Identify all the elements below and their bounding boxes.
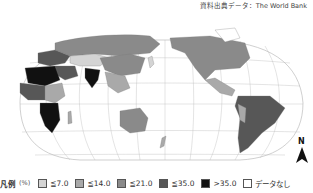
legend: 凡例 (%) ≦7.0 ≦14.0 ≦21.0 ≦35.0 >35.0 データな… bbox=[0, 175, 297, 191]
legend-swatch bbox=[201, 179, 210, 188]
region-central-america bbox=[205, 78, 235, 96]
legend-item-le35: ≦35.0 bbox=[159, 179, 194, 188]
legend-label: データなし bbox=[255, 178, 290, 189]
world-choropleth-map bbox=[0, 8, 313, 170]
region-west-africa bbox=[20, 83, 45, 100]
north-arrow-icon bbox=[296, 147, 308, 163]
legend-label: >35.0 bbox=[213, 179, 236, 188]
region-east-africa bbox=[45, 83, 65, 103]
legend-swatch bbox=[38, 179, 47, 188]
legend-item-le21: ≦21.0 bbox=[117, 179, 152, 188]
legend-label: ≦35.0 bbox=[171, 179, 194, 188]
legend-swatch bbox=[117, 179, 126, 188]
legend-label: ≦14.0 bbox=[87, 179, 110, 188]
region-australia bbox=[120, 108, 148, 133]
legend-item-gt35: >35.0 bbox=[201, 179, 236, 188]
legend-item-le14: ≦14.0 bbox=[75, 179, 110, 188]
legend-swatch bbox=[159, 179, 168, 188]
legend-item-le7: ≦7.0 bbox=[38, 179, 68, 188]
region-south-america bbox=[235, 96, 285, 153]
legend-swatch bbox=[75, 179, 84, 188]
north-label: N bbox=[298, 137, 305, 146]
legend-item-nodata: データなし bbox=[243, 178, 290, 189]
region-south-africa bbox=[40, 103, 60, 133]
region-north-africa bbox=[25, 66, 60, 86]
legend-swatch bbox=[243, 179, 252, 188]
north-arrow: N bbox=[295, 137, 309, 165]
legend-label: ≦7.0 bbox=[50, 179, 68, 188]
legend-unit: (%) bbox=[19, 179, 30, 187]
region-madagascar bbox=[68, 111, 72, 124]
region-russia bbox=[55, 35, 160, 56]
legend-title: 凡例 bbox=[0, 178, 16, 189]
region-india bbox=[85, 68, 100, 88]
legend-label: ≦21.0 bbox=[129, 179, 152, 188]
